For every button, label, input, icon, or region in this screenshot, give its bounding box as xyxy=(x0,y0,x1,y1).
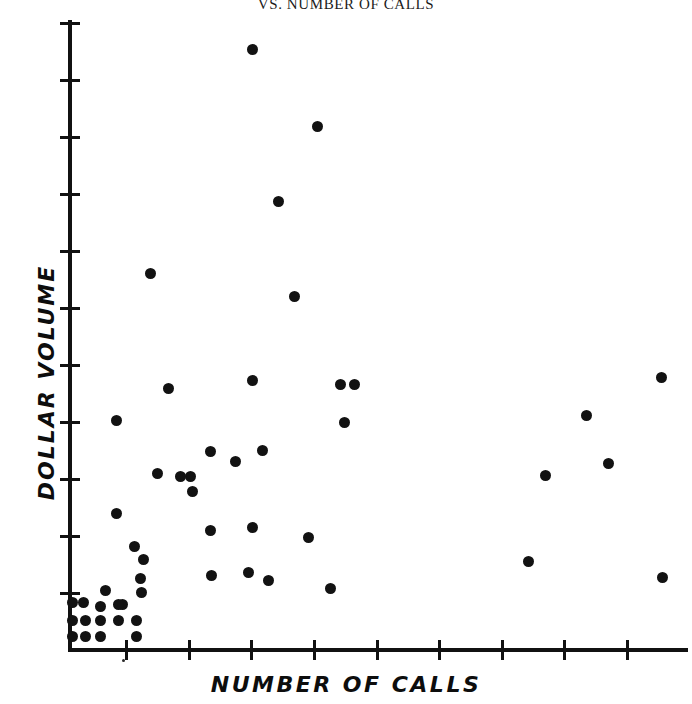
data-point xyxy=(67,597,78,608)
data-point xyxy=(67,615,78,626)
plot-area xyxy=(0,0,692,704)
data-point xyxy=(247,375,258,386)
data-point xyxy=(95,615,106,626)
data-point xyxy=(206,570,217,581)
y-axis-tick xyxy=(60,478,80,481)
data-point xyxy=(540,470,551,481)
data-point xyxy=(95,631,106,642)
data-point xyxy=(243,567,254,578)
data-point xyxy=(257,445,268,456)
x-axis-tick xyxy=(376,640,379,660)
y-axis-line xyxy=(68,20,72,652)
y-axis-tick xyxy=(60,535,80,538)
x-axis-tick xyxy=(438,640,441,660)
y-axis-tick xyxy=(60,79,80,82)
y-axis-tick xyxy=(60,22,80,25)
y-axis-tick xyxy=(60,193,80,196)
data-point xyxy=(136,587,147,598)
data-point xyxy=(145,268,156,279)
data-point xyxy=(111,415,122,426)
data-point xyxy=(131,631,142,642)
data-point xyxy=(163,383,174,394)
data-point xyxy=(113,599,124,610)
x-axis-tick xyxy=(188,640,191,660)
x-axis-tick xyxy=(250,640,253,660)
data-point xyxy=(95,601,106,612)
data-point xyxy=(135,573,146,584)
data-point xyxy=(129,541,140,552)
x-axis-title: NUMBER OF CALLS xyxy=(0,672,692,697)
data-point xyxy=(349,379,360,390)
y-axis-tick xyxy=(60,592,80,595)
data-point xyxy=(603,458,614,469)
data-point xyxy=(138,554,149,565)
data-point xyxy=(303,532,314,543)
data-point xyxy=(113,615,124,626)
x-axis-tick xyxy=(125,640,128,660)
data-point xyxy=(205,446,216,457)
data-point xyxy=(187,486,198,497)
data-point xyxy=(263,575,274,586)
data-point xyxy=(80,615,91,626)
y-axis-title: DOLLAR VOLUME xyxy=(34,253,59,513)
data-point xyxy=(67,631,78,642)
y-axis-tick xyxy=(60,364,80,367)
data-point xyxy=(100,585,111,596)
data-point xyxy=(523,556,534,567)
data-point xyxy=(230,456,241,467)
data-point xyxy=(656,372,667,383)
data-point xyxy=(312,121,323,132)
scatter-plot-figure: VS. NUMBER OF CALLS NUMBER OF CALLS DOLL… xyxy=(0,0,692,704)
data-point xyxy=(581,410,592,421)
data-point xyxy=(247,522,258,533)
data-point xyxy=(273,196,284,207)
data-point xyxy=(185,471,196,482)
x-axis-tick xyxy=(313,640,316,660)
data-point xyxy=(205,525,216,536)
y-axis-tick xyxy=(60,307,80,310)
data-point xyxy=(339,417,350,428)
data-point xyxy=(78,597,89,608)
data-point xyxy=(289,291,300,302)
data-point xyxy=(175,471,186,482)
y-axis-tick xyxy=(60,421,80,424)
data-point xyxy=(325,583,336,594)
data-point xyxy=(335,379,346,390)
data-point xyxy=(131,615,142,626)
x-axis-tick xyxy=(501,640,504,660)
data-point xyxy=(111,508,122,519)
x-axis-tick xyxy=(626,640,629,660)
x-axis-tick xyxy=(563,640,566,660)
print-speck xyxy=(122,659,125,662)
data-point xyxy=(657,572,668,583)
data-point xyxy=(80,631,91,642)
y-axis-tick xyxy=(60,136,80,139)
y-axis-tick xyxy=(60,250,80,253)
data-point xyxy=(247,44,258,55)
data-point xyxy=(152,468,163,479)
